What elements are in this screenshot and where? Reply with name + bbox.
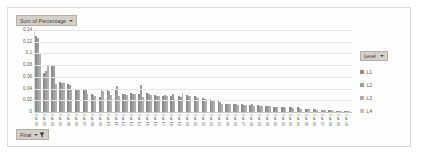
legend-item[interactable]: L1 xyxy=(360,69,410,75)
legend-swatch xyxy=(360,96,364,100)
chevron-down-icon xyxy=(69,20,73,22)
bar[interactable] xyxy=(110,95,112,112)
chevron-down-icon xyxy=(34,134,38,136)
report-filter-button[interactable]: Final xyxy=(16,129,49,140)
x-axis-tick-label: Cat 34 xyxy=(296,114,300,126)
bar[interactable] xyxy=(166,96,168,112)
x-axis-tick: Cat 26 xyxy=(233,113,241,143)
y-axis-tick-label: 0.04 xyxy=(23,86,32,91)
bar[interactable] xyxy=(94,96,96,112)
x-axis-tick-label: Cat 28 xyxy=(249,114,253,126)
x-axis-tick-label: Cat 18 xyxy=(169,114,173,126)
x-axis-tick: Cat 19 xyxy=(177,113,185,143)
x-axis-tick: Cat 30 xyxy=(265,113,273,143)
legend-item[interactable]: L4 xyxy=(360,108,410,114)
bar[interactable] xyxy=(118,96,120,112)
x-axis-tick: Cat 23 xyxy=(209,113,217,143)
gridline xyxy=(35,100,352,101)
legend-item-label: L2 xyxy=(367,82,373,88)
x-axis-tick: Cat 40 xyxy=(344,113,352,143)
x-axis-tick-label: Cat 27 xyxy=(241,114,245,126)
y-axis: 0.140.120.10.080.060.040.020 xyxy=(8,30,34,112)
x-axis-tick: Cat 25 xyxy=(225,113,233,143)
y-axis-tick-label: 0.06 xyxy=(23,75,32,80)
x-axis-tick-label: Cat 26 xyxy=(233,114,237,126)
x-axis-tick: Cat 24 xyxy=(217,113,225,143)
bar[interactable] xyxy=(182,93,184,112)
legend-item-label: L3 xyxy=(367,95,373,101)
x-axis-tick-label: Cat 12 xyxy=(121,114,125,126)
x-axis-tick-label: Cat 24 xyxy=(217,114,221,126)
x-axis-tick-label: Cat 31 xyxy=(272,114,276,126)
legend[interactable]: Level L1L2L3L4 xyxy=(360,44,410,114)
bar[interactable] xyxy=(221,104,223,112)
bar[interactable] xyxy=(229,104,231,112)
y-axis-tick-label: 0.02 xyxy=(23,98,32,103)
x-axis-tick: Cat 28 xyxy=(249,113,257,143)
legend-field-button[interactable]: Level xyxy=(360,51,388,61)
gridline xyxy=(35,53,352,54)
x-axis-tick-label: Cat 22 xyxy=(201,114,205,126)
x-axis-tick-label: Cat 15 xyxy=(145,114,149,126)
x-axis-tick-label: Cat 09 xyxy=(98,114,102,126)
pivot-chart-frame[interactable]: Sum of Percentage 0.140.120.10.080.060.0… xyxy=(7,7,411,147)
x-axis-tick-label: Cat 29 xyxy=(257,114,261,126)
funnel-filter-icon xyxy=(39,132,45,138)
legend-item[interactable]: L3 xyxy=(360,95,410,101)
y-axis-tick-label: 0.08 xyxy=(23,63,32,68)
bar[interactable] xyxy=(126,95,128,112)
value-field-button[interactable]: Sum of Percentage xyxy=(16,15,77,26)
x-axis-tick-label: Cat 39 xyxy=(336,114,340,126)
x-axis-tick-label: Cat 32 xyxy=(280,114,284,126)
gridline xyxy=(35,65,352,66)
bar[interactable] xyxy=(189,96,191,112)
x-axis-tick: Cat 29 xyxy=(257,113,265,143)
x-axis-tick-label: Cat 16 xyxy=(153,114,157,126)
x-axis-tick-label: Cat 04 xyxy=(58,114,62,126)
x-axis-tick: Cat 31 xyxy=(273,113,281,143)
x-axis-tick-label: Cat 25 xyxy=(225,114,229,126)
y-axis-tick-label: 0 xyxy=(29,110,32,115)
bar[interactable] xyxy=(213,101,215,112)
x-axis-tick-label: Cat 35 xyxy=(304,114,308,126)
x-axis-tick-label: Cat 11 xyxy=(113,114,117,126)
x-axis-tick-label: Cat 08 xyxy=(90,114,94,126)
x-axis-tick: Cat 21 xyxy=(193,113,201,143)
x-axis-tick-label: Cat 02 xyxy=(42,114,46,126)
legend-item-label: L4 xyxy=(367,108,373,114)
x-axis-tick-label: Cat 33 xyxy=(288,114,292,126)
chevron-down-icon xyxy=(380,55,384,57)
legend-swatch xyxy=(360,109,364,113)
bar[interactable] xyxy=(237,105,239,112)
x-axis-tick: Cat 22 xyxy=(201,113,209,143)
x-axis-tick: Cat 07 xyxy=(82,113,90,143)
bar[interactable] xyxy=(102,91,104,112)
x-axis-tick-label: Cat 01 xyxy=(34,114,38,126)
x-axis-tick-label: Cat 37 xyxy=(320,114,324,126)
x-axis-tick-label: Cat 30 xyxy=(265,114,269,126)
x-axis-tick-label: Cat 14 xyxy=(137,114,141,126)
legend-item[interactable]: L2 xyxy=(360,82,410,88)
plot-area[interactable] xyxy=(34,30,352,112)
x-axis-tick: Cat 06 xyxy=(74,113,82,143)
x-axis-tick-label: Cat 17 xyxy=(161,114,165,126)
x-axis-tick-label: Cat 03 xyxy=(50,114,54,126)
legend-swatch xyxy=(360,83,364,87)
bar[interactable] xyxy=(134,94,136,112)
bar[interactable] xyxy=(39,53,41,112)
legend-item-label: L1 xyxy=(367,69,373,75)
bar[interactable] xyxy=(245,105,247,112)
x-axis-tick: Cat 08 xyxy=(90,113,98,143)
bar[interactable] xyxy=(158,96,160,112)
x-axis-tick: Cat 03 xyxy=(50,113,58,143)
bar[interactable] xyxy=(150,95,152,112)
x-axis-tick: Cat 05 xyxy=(66,113,74,143)
bar[interactable] xyxy=(87,94,89,112)
x-axis-tick-label: Cat 06 xyxy=(74,114,78,126)
legend-field-label: Level xyxy=(364,53,376,59)
x-axis-tick-label: Cat 21 xyxy=(193,114,197,126)
gridline xyxy=(35,89,352,90)
x-axis-tick: Cat 10 xyxy=(106,113,114,143)
x-axis-tick-label: Cat 23 xyxy=(209,114,213,126)
x-axis-tick-label: Cat 38 xyxy=(328,114,332,126)
